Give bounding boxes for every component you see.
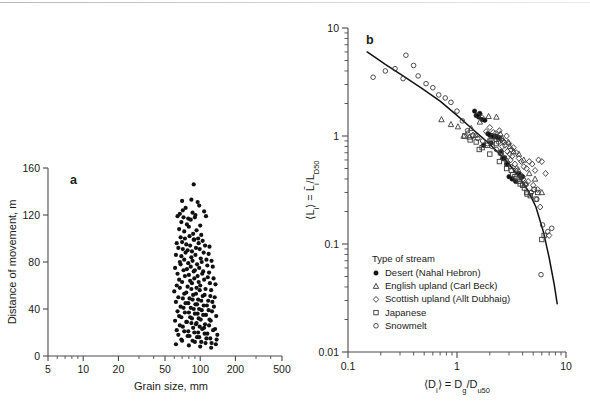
panel-a-data-point [181, 247, 185, 251]
panel-a-data-point [182, 258, 186, 262]
panel-a-data-point [183, 236, 187, 240]
panel-a-y-ticklabel: 0 [34, 350, 40, 362]
panel-a-data-point [197, 241, 201, 245]
panel-a-data-point [204, 214, 208, 218]
panel-b-data-point [532, 167, 537, 173]
panel-a-data-point [190, 281, 194, 285]
panel-a-data-point [176, 333, 180, 337]
panel-a-data-point [207, 323, 211, 327]
panel-b-data-point [488, 152, 492, 156]
panel-a-data-point [210, 309, 214, 313]
panel-b-data-point [443, 96, 448, 101]
legend-item[interactable]: English upland (Carl Beck) [373, 280, 497, 291]
panel-a-data-point [191, 326, 195, 330]
page-top-rule [0, 2, 590, 3]
panel-a-data-point [175, 309, 179, 313]
panel-a-x-ticklabel: 100 [191, 363, 209, 375]
panel-b-data-point [455, 124, 460, 129]
panel-a-data-point [179, 235, 183, 239]
panel-a-data-point [187, 225, 191, 229]
panel-a-data-point [186, 329, 190, 333]
panel-a-data-point [194, 322, 198, 326]
panel-a-data-point [197, 266, 201, 270]
panel-a-data-point [192, 238, 196, 242]
panel-b-x-ticklabel: 1 [454, 360, 460, 372]
panel-b-data-point [527, 159, 532, 165]
legend-item[interactable]: Desert (Nahal Hebron) [374, 267, 481, 278]
panel-b-data-point [539, 272, 544, 277]
panel-a-data-point [204, 258, 208, 262]
legend-item-label: Desert (Nahal Hebron) [385, 267, 481, 278]
panel-a-data-point [209, 288, 213, 292]
panel-b-fit-curve [367, 52, 557, 304]
panel-a-data-point [189, 218, 193, 222]
panel-a-data-point [200, 327, 204, 331]
panel-a-data-point [209, 259, 213, 263]
panel-a-data-point [201, 294, 205, 298]
panel-a-data-point [211, 276, 215, 280]
panel-a-data-point [200, 272, 204, 276]
panel-a-data-point [183, 274, 187, 278]
panel-a-data-point [202, 278, 206, 282]
panel-b-y-axis-label: ⟨Li⟩ = L̄i/LD50 [304, 160, 321, 219]
panel-a-data-point [189, 321, 193, 325]
panel-a-data-point [204, 336, 208, 340]
panel-a-data-point [190, 259, 194, 263]
legend-item[interactable]: Snowmelt [374, 320, 427, 331]
panel-a-data-point [176, 295, 180, 299]
panel-a-data-point [208, 336, 212, 340]
panel-a-data-point [187, 273, 191, 277]
panel-a: 040801201605102050100200500Grain size, m… [6, 162, 291, 392]
panel-a-data-point [214, 337, 218, 341]
panel-a-data-point [187, 310, 191, 314]
panel-a-y-ticklabel: 40 [28, 303, 40, 315]
panel-a-data-point [177, 227, 181, 231]
panel-a-data-point [198, 223, 202, 227]
panel-a-data-point [179, 315, 183, 319]
panel-a-data-point [213, 295, 217, 299]
panel-b-x-axis-label: ⟨Di⟩ = Dg/Du50 [424, 378, 490, 395]
legend-marker-open-square [374, 310, 378, 314]
panel-a-data-point [181, 215, 185, 219]
panel-a-x-ticklabel: 5 [45, 363, 51, 375]
panel-a-y-axis-label: Distance of movement, m [6, 200, 18, 325]
panel-a-x-ticklabel: 50 [159, 363, 171, 375]
panel-b-data-point [411, 63, 416, 68]
panel-a-data-point [190, 298, 194, 302]
panel-a-data-point [184, 242, 188, 246]
legend-item-label: Japanese [385, 307, 426, 318]
panel-a-data-point [179, 262, 183, 266]
panel-b-data-point [404, 53, 409, 58]
panel-a-data-point [174, 342, 178, 346]
panel-a-data-point [207, 245, 211, 249]
legend-marker-open-circle [374, 324, 379, 329]
panel-b-data-point [545, 229, 550, 234]
panel-a-data-point [206, 275, 210, 279]
legend-item[interactable]: Scottish upland (Allt Dubhaig) [373, 293, 510, 304]
panel-b-y-ticklabel: 0.01 [319, 346, 340, 358]
panel-a-data-point [189, 265, 193, 269]
panel-a-data-point [201, 239, 205, 243]
panel-a-data-point [199, 340, 203, 344]
panel-a-y-ticklabel: 160 [22, 162, 40, 174]
panel-a-data-point [190, 249, 194, 253]
panel-a-data-point [198, 247, 202, 251]
panel-a-data-point [211, 265, 215, 269]
legend-marker-filled-circle [374, 271, 378, 275]
panel-b-data-point [416, 74, 421, 79]
panel-a-data-point [207, 252, 211, 256]
panel-a-data-point [192, 269, 196, 273]
panel-a-data-point [172, 289, 176, 293]
panel-b-data-point [401, 76, 406, 81]
panel-a-data-point [180, 339, 184, 343]
panel-a-data-point [209, 319, 213, 323]
panel-a-x-ticklabel: 500 [273, 363, 291, 375]
panel-b-data-point [480, 139, 485, 144]
panel-a-data-point [193, 312, 197, 316]
legend-item[interactable]: Japanese [374, 307, 426, 318]
panel-a-data-point [190, 316, 194, 320]
panel-b-data-point [449, 100, 454, 105]
panel-a-data-point [200, 308, 204, 312]
panel-b-y-ticklabel: 10 [327, 22, 339, 34]
panel-a-data-point [194, 246, 198, 250]
